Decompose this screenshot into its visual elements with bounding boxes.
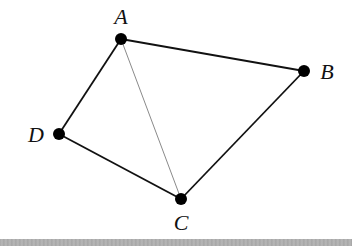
vertex-c [175, 193, 187, 205]
edge-ab [121, 39, 304, 71]
edge-bc [181, 71, 304, 199]
vertex-d [53, 128, 65, 140]
bottom-divider-band [0, 239, 352, 246]
graph-diagram: ABCD [0, 0, 352, 246]
vertex-label-d: D [27, 122, 44, 147]
vertex-label-b: B [320, 59, 333, 84]
edge-ac [121, 39, 181, 199]
vertex-b [298, 65, 310, 77]
vertex-label-a: A [112, 4, 128, 29]
vertex-a [115, 33, 127, 45]
vertices [53, 33, 310, 205]
edges [59, 39, 304, 199]
vertex-label-c: C [174, 210, 189, 235]
edge-cd [59, 134, 181, 199]
edge-da [59, 39, 121, 134]
